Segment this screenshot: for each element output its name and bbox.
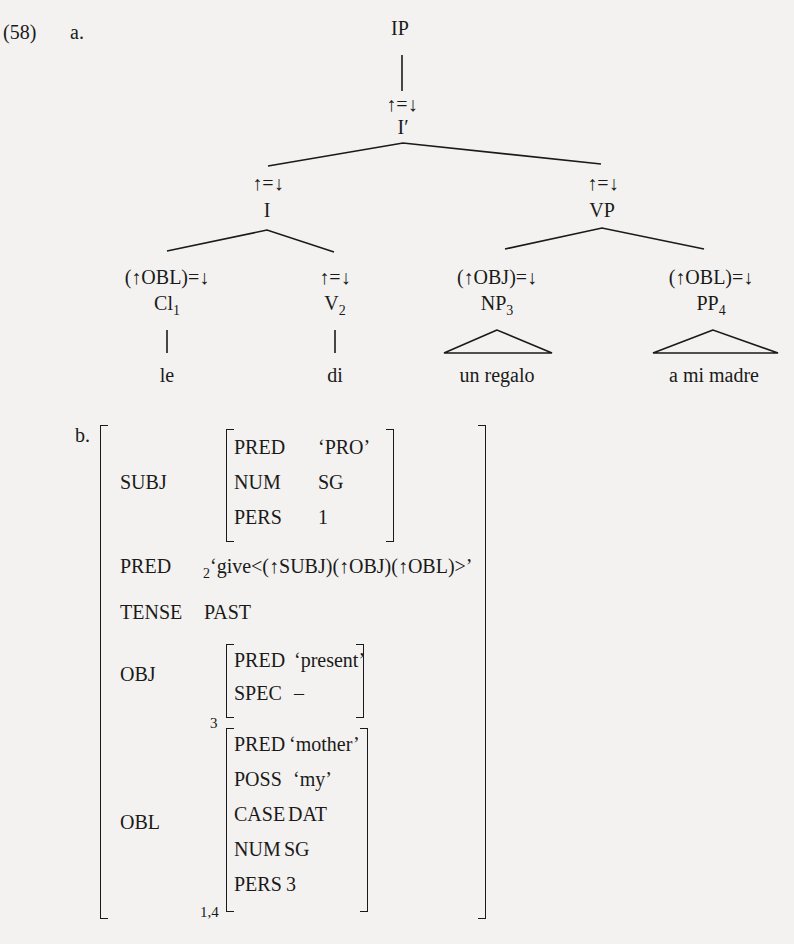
leaf-un-regalo: un regalo: [460, 363, 535, 387]
obj-attr-spec: SPEC: [234, 681, 282, 705]
leaf-le: le: [160, 363, 174, 387]
attr-obl: OBL: [120, 810, 160, 834]
subj-attr-pred: PRED: [234, 435, 285, 459]
leaf-a-mi-madre: a mi madre: [669, 363, 759, 387]
outer-bracket-left: [100, 425, 108, 919]
obl-index: 1,4: [200, 900, 219, 924]
i-annotation: ↑=↓: [252, 171, 283, 195]
obl-attr-pers: PERS: [234, 872, 282, 896]
obl-val-case: DAT: [288, 802, 327, 826]
obl-val-pred: ‘mother’: [289, 732, 360, 756]
attr-tense: TENSE: [120, 600, 182, 624]
node-cl: Cl1: [154, 291, 180, 315]
obj-val-spec: –: [294, 681, 304, 705]
obl-attr-case: CASE: [234, 802, 285, 826]
node-i: I: [264, 198, 271, 222]
subj-attr-num: NUM: [234, 470, 281, 494]
obj-attr-pred: PRED: [234, 648, 285, 672]
tense-value: PAST: [204, 600, 251, 624]
np-annotation: (↑OBJ)=↓: [457, 265, 537, 289]
obl-attr-num: NUM: [234, 837, 281, 861]
subj-val-num: SG: [318, 470, 344, 494]
obl-bracket-right: [360, 728, 368, 912]
subj-bracket-left: [226, 429, 234, 542]
leaf-di: di: [327, 363, 343, 387]
subj-bracket-right: [386, 429, 394, 542]
obl-attr-poss: POSS: [234, 767, 282, 791]
cl-annotation: (↑OBL)=↓: [125, 265, 210, 289]
attr-subj: SUBJ: [120, 470, 167, 494]
pp-annotation: (↑OBL)=↓: [669, 265, 754, 289]
node-pp: PP4: [696, 291, 725, 315]
v-annotation: ↑=↓: [319, 265, 350, 289]
attr-pred: PRED: [120, 554, 171, 578]
pred-value: 2‘give<(↑SUBJ)(↑OBJ)(↑OBL)>’: [203, 554, 473, 578]
node-ip: IP: [391, 16, 409, 40]
node-v: V2: [324, 291, 345, 315]
ibar-annotation: ↑=↓: [386, 92, 417, 116]
obl-val-pers: 3: [286, 872, 296, 896]
obj-bracket-left: [226, 644, 234, 718]
attr-obj: OBJ: [120, 662, 156, 686]
node-np: NP3: [481, 291, 514, 315]
obl-attr-pred: PRED: [234, 732, 285, 756]
subj-val-pers: 1: [318, 505, 328, 529]
pred-index: 2: [203, 566, 210, 581]
obj-index: 3: [210, 711, 218, 735]
subj-val-pred: ‘PRO’: [318, 435, 370, 459]
obl-val-num: SG: [284, 837, 310, 861]
node-ibar: I′: [397, 115, 408, 139]
subj-attr-pers: PERS: [234, 505, 282, 529]
outer-bracket-right: [478, 425, 486, 919]
obj-val-pred: ‘present’: [294, 648, 365, 672]
vp-annotation: ↑=↓: [587, 171, 618, 195]
obl-bracket-left: [226, 728, 234, 912]
node-vp: VP: [589, 198, 615, 222]
obl-val-poss: ‘my’: [293, 767, 332, 791]
